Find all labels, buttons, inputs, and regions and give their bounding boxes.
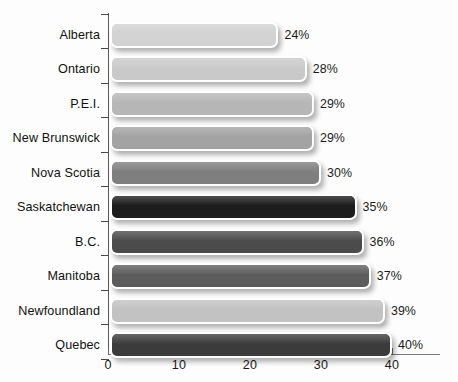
bar-row: Newfoundland39% bbox=[0, 298, 458, 324]
y-tick-2 bbox=[101, 83, 109, 84]
bar-container bbox=[110, 22, 278, 48]
bar-b-c[interactable] bbox=[110, 229, 364, 255]
bar-ontario[interactable] bbox=[110, 56, 307, 82]
bar-container bbox=[110, 229, 364, 255]
y-tick-5 bbox=[101, 186, 109, 187]
bar-highlight bbox=[112, 196, 355, 206]
x-tick-label-10: 10 bbox=[159, 358, 199, 372]
category-label-ontario: Ontario bbox=[0, 56, 100, 82]
value-label-ontario: 28% bbox=[313, 56, 338, 82]
y-tick-8 bbox=[101, 290, 109, 291]
bar-p-e-i[interactable] bbox=[110, 91, 314, 117]
bar-quebec[interactable] bbox=[110, 332, 392, 358]
value-label-b-c: 36% bbox=[370, 229, 395, 255]
bar-highlight bbox=[112, 334, 390, 344]
value-label-p-e-i: 29% bbox=[320, 91, 345, 117]
bar-highlight bbox=[112, 93, 312, 103]
x-tick-label-0: 0 bbox=[88, 358, 128, 372]
y-tick-6 bbox=[101, 221, 109, 222]
category-label-new-brunswick: New Brunswick bbox=[0, 125, 100, 151]
y-tick-3 bbox=[101, 117, 109, 118]
bar-container bbox=[110, 91, 314, 117]
value-label-new-brunswick: 29% bbox=[320, 125, 345, 151]
category-label-nova-scotia: Nova Scotia bbox=[0, 160, 100, 186]
value-label-quebec: 40% bbox=[398, 332, 423, 358]
bar-chart: 010203040 Alberta24%Ontario28%P.E.I.29%N… bbox=[0, 0, 458, 382]
bar-highlight bbox=[112, 24, 276, 34]
x-tick-label-40: 40 bbox=[372, 358, 412, 372]
bar-new-brunswick[interactable] bbox=[110, 125, 314, 151]
bar-container bbox=[110, 125, 314, 151]
bar-saskatchewan[interactable] bbox=[110, 194, 357, 220]
x-tick-label-30: 30 bbox=[301, 358, 341, 372]
bar-row: P.E.I.29% bbox=[0, 91, 458, 117]
bar-container bbox=[110, 194, 357, 220]
value-label-saskatchewan: 35% bbox=[363, 194, 388, 220]
y-tick-7 bbox=[101, 255, 109, 256]
bar-row: Quebec40% bbox=[0, 332, 458, 358]
bar-row: B.C.36% bbox=[0, 229, 458, 255]
category-label-p-e-i: P.E.I. bbox=[0, 91, 100, 117]
y-tick-0 bbox=[101, 14, 109, 15]
category-label-saskatchewan: Saskatchewan bbox=[0, 194, 100, 220]
bar-highlight bbox=[112, 58, 305, 68]
bar-row: Manitoba37% bbox=[0, 263, 458, 289]
bar-container bbox=[110, 263, 371, 289]
bar-container bbox=[110, 56, 307, 82]
value-label-newfoundland: 39% bbox=[391, 298, 416, 324]
bar-alberta[interactable] bbox=[110, 22, 278, 48]
category-label-alberta: Alberta bbox=[0, 22, 100, 48]
category-label-manitoba: Manitoba bbox=[0, 263, 100, 289]
y-tick-1 bbox=[101, 48, 109, 49]
bar-row: Saskatchewan35% bbox=[0, 194, 458, 220]
bar-nova-scotia[interactable] bbox=[110, 160, 321, 186]
category-label-b-c: B.C. bbox=[0, 229, 100, 255]
bar-container bbox=[110, 332, 392, 358]
bar-newfoundland[interactable] bbox=[110, 298, 385, 324]
y-tick-4 bbox=[101, 152, 109, 153]
category-label-newfoundland: Newfoundland bbox=[0, 298, 100, 324]
x-tick-label-20: 20 bbox=[230, 358, 270, 372]
value-label-alberta: 24% bbox=[284, 22, 309, 48]
bar-container bbox=[110, 160, 321, 186]
bar-highlight bbox=[112, 265, 369, 275]
bar-highlight bbox=[112, 300, 383, 310]
y-tick-9 bbox=[101, 324, 109, 325]
category-label-quebec: Quebec bbox=[0, 332, 100, 358]
bar-highlight bbox=[112, 231, 362, 241]
bar-highlight bbox=[112, 162, 319, 172]
bar-row: Alberta24% bbox=[0, 22, 458, 48]
bar-highlight bbox=[112, 127, 312, 137]
bar-container bbox=[110, 298, 385, 324]
bar-manitoba[interactable] bbox=[110, 263, 371, 289]
bar-row: Nova Scotia30% bbox=[0, 160, 458, 186]
plot-area: 010203040 Alberta24%Ontario28%P.E.I.29%N… bbox=[0, 0, 458, 382]
bar-row: Ontario28% bbox=[0, 56, 458, 82]
value-label-manitoba: 37% bbox=[377, 263, 402, 289]
bar-row: New Brunswick29% bbox=[0, 125, 458, 151]
value-label-nova-scotia: 30% bbox=[327, 160, 352, 186]
